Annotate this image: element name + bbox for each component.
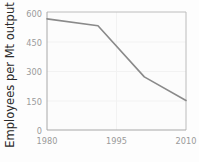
y-tick-label-600: 600 xyxy=(26,9,42,19)
x-tick-label-1980: 1980 xyxy=(37,136,58,146)
x-tick-label-1995: 1995 xyxy=(106,136,127,146)
chart-canvas: 600 450 300 150 0 1980 1995 2010 Employe… xyxy=(0,0,199,162)
y-tick-label-0: 0 xyxy=(37,126,42,136)
y-tick-label-300: 300 xyxy=(26,67,42,77)
x-tick-label-2010: 2010 xyxy=(176,136,197,146)
y-tick-label-450: 450 xyxy=(26,38,42,48)
y-axis-title: Employees per Mt output xyxy=(3,2,17,148)
line-chart: 600 450 300 150 0 1980 1995 2010 Employe… xyxy=(0,0,199,162)
y-tick-label-150: 150 xyxy=(26,97,42,107)
